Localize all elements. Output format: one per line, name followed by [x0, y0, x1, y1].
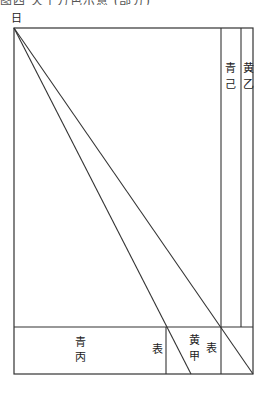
diagonal-1 [14, 28, 191, 374]
column-2-label-bottom: 乙 [241, 79, 255, 91]
column-1-label-bottom: 己 [223, 79, 237, 91]
band-middle-label-bottom: 甲 [187, 351, 201, 363]
diagram-lines [0, 0, 269, 393]
band-left-label-top: 青 [73, 337, 87, 349]
band-middle-label-top: 黄 [187, 335, 201, 347]
column-2-label-top: 黄 [241, 63, 255, 75]
band-middle-side-label: 表 [204, 343, 218, 355]
band-left-side-label: 表 [150, 344, 164, 356]
diagonal-2 [14, 28, 253, 374]
corner-label: 日 [9, 13, 23, 25]
column-1-label-top: 青 [223, 63, 237, 75]
band-left-label-bottom: 丙 [73, 352, 87, 364]
